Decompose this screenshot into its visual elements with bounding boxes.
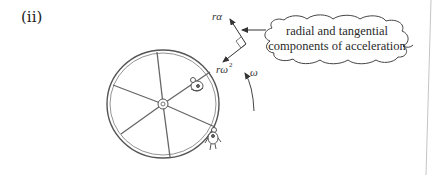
callout-cloud: radial and tangential components of acce…: [265, 15, 413, 64]
callout-line-2: components of acceleration: [268, 39, 406, 53]
angular-velocity: ω: [245, 66, 258, 111]
omega-arrow: [245, 73, 254, 111]
acceleration-diagram: (ii): [0, 0, 441, 175]
tangential-arrow: [230, 19, 246, 44]
part-label: (ii): [21, 8, 42, 26]
wheel-hub: [158, 99, 168, 109]
tangential-label: rα: [212, 10, 222, 22]
ferris-wheel: [107, 50, 221, 158]
rider-upper-icon: [191, 78, 204, 92]
radial-label-exponent: 2: [229, 61, 233, 69]
rider-lower-icon: [205, 128, 221, 151]
callout-line-1: radial and tangential: [286, 24, 389, 38]
page-edge-line: [426, 0, 431, 175]
acceleration-vectors: rα rω 2: [212, 10, 246, 75]
omega-label: ω: [250, 66, 258, 78]
radial-label: rω: [216, 63, 228, 75]
